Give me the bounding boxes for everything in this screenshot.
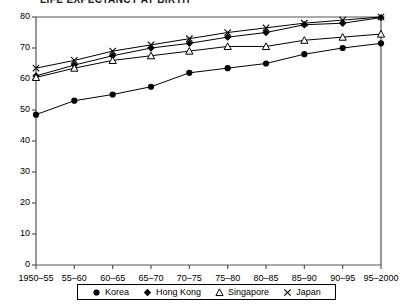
y-axis-tick-label: 30 (4, 167, 30, 176)
series-korea (33, 40, 384, 118)
cross-icon (283, 288, 292, 297)
legend-item-japan: Japan (283, 288, 321, 297)
legend-item-label: Japan (296, 288, 321, 297)
x-axis-tick-label: 95–2000 (354, 274, 408, 283)
y-axis-tick-label: 80 (4, 12, 30, 21)
y-axis-tick-label: 60 (4, 74, 30, 83)
legend-item-label: Korea (105, 288, 129, 297)
open-triangle-icon (215, 288, 224, 297)
filled-diamond-icon (143, 288, 152, 297)
plot-area (0, 0, 413, 306)
legend-item-label: Singapore (228, 288, 269, 297)
y-axis-tick-label: 20 (4, 198, 30, 207)
line-chart: LIFE EXPECTANCY AT BIRTH 010203040506070… (0, 0, 413, 306)
filled-circle-icon (92, 288, 101, 297)
y-axis-tick-label: 50 (4, 105, 30, 114)
legend-item-singapore: Singapore (215, 288, 269, 297)
y-axis-tick-label: 0 (4, 260, 30, 269)
data-series-group (32, 14, 384, 118)
legend-item-korea: Korea (92, 288, 129, 297)
chart-legend: KoreaHong KongSingaporeJapan (77, 284, 336, 300)
legend-item-label: Hong Kong (156, 288, 201, 297)
y-axis-tick-label: 40 (4, 136, 30, 145)
chart-axes (32, 17, 381, 269)
y-axis-tick-label: 10 (4, 229, 30, 238)
legend-item-hong-kong: Hong Kong (143, 288, 201, 297)
y-axis-tick-label: 70 (4, 43, 30, 52)
